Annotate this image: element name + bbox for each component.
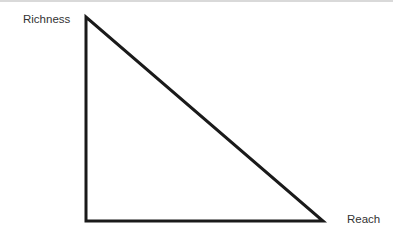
y-axis-label: Richness [23, 13, 70, 25]
triangle-diagram [0, 0, 393, 232]
x-axis-label: Reach [347, 213, 380, 225]
reach-richness-triangle [86, 17, 323, 221]
